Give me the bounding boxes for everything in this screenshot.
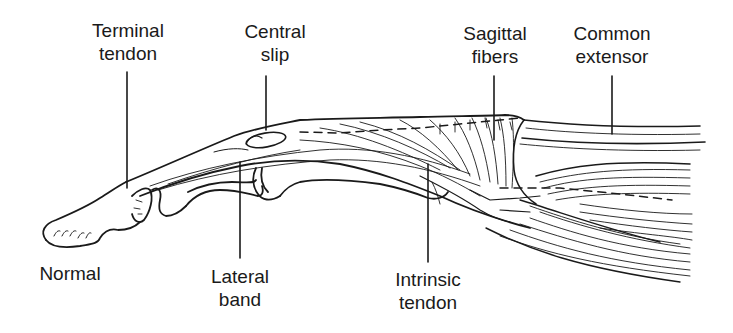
label-central-slip-line1: Central <box>244 20 305 43</box>
label-terminal-tendon: Terminal tendon <box>92 19 164 65</box>
label-intrinsic-tendon-line1: Intrinsic <box>395 268 460 291</box>
label-sagittal-fibers-line2: fibers <box>463 45 526 68</box>
label-intrinsic-tendon: Intrinsic tendon <box>395 268 460 314</box>
label-sagittal-fibers: Sagittal fibers <box>463 22 526 68</box>
label-common-extensor-line2: extensor <box>573 45 650 68</box>
label-normal-caption: Normal <box>39 262 100 285</box>
extensor-hood <box>126 115 530 228</box>
label-lateral-band-line1: Lateral <box>211 265 269 288</box>
leader-lines <box>127 72 612 262</box>
label-common-extensor: Common extensor <box>573 22 650 68</box>
label-intrinsic-tendon-line2: tendon <box>395 291 460 314</box>
finger-extensor-diagram: Terminal tendon Central slip Sagittal fi… <box>0 0 733 333</box>
label-terminal-tendon-line1: Terminal <box>92 19 164 42</box>
label-lateral-band-line2: band <box>211 288 269 311</box>
label-lateral-band: Lateral band <box>211 265 269 311</box>
label-central-slip: Central slip <box>244 20 305 66</box>
label-terminal-tendon-line2: tendon <box>92 42 164 65</box>
label-common-extensor-line1: Common <box>573 22 650 45</box>
label-central-slip-line2: slip <box>244 43 305 66</box>
label-sagittal-fibers-line1: Sagittal <box>463 22 526 45</box>
label-normal-line1: Normal <box>39 262 100 285</box>
distal-phalanx <box>43 182 186 247</box>
